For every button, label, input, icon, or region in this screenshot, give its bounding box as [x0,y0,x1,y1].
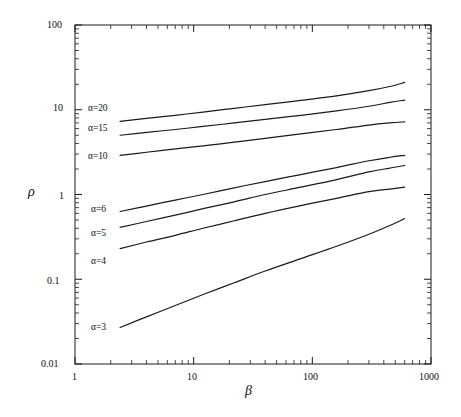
ytick-label-10: 10 [53,102,63,113]
series-label-alpha-4: α=4 [91,256,106,266]
series-label-alpha-15: α=15 [88,123,107,133]
series-label-alpha-20: α=20 [88,103,107,113]
y-axis-title: ρ [28,184,35,200]
ytick-label-0.1: 0.1 [47,275,60,286]
ytick-label-0.01: 0.01 [41,358,59,369]
series-label-alpha-5: α=5 [91,228,106,238]
ytick-label-100: 100 [47,19,62,30]
xtick-label-100: 100 [303,371,318,382]
series-label-alpha-10: α=10 [88,151,107,161]
x-axis-title: β [245,383,252,399]
chart-figure: 100 10 1 0.1 0.01 1 10 100 1000 ρ β α=20… [0,0,461,417]
series-label-alpha-6: α=6 [91,204,106,214]
xtick-label-10: 10 [187,371,197,382]
plot-frame [75,25,431,364]
xtick-label-1000: 1000 [419,371,439,382]
series-label-alpha-3: α=3 [91,322,106,332]
plot-area [0,0,461,417]
xtick-label-1: 1 [72,371,77,382]
ytick-label-1: 1 [59,190,64,201]
